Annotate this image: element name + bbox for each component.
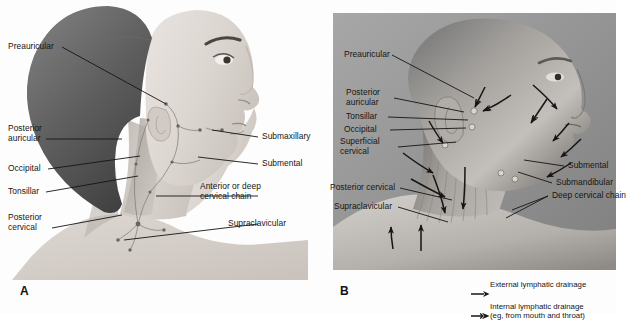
- label-a-posterior-auricular: Posterior auricular: [8, 124, 42, 143]
- legend-label-internal: Internal lymphatic drainage (eg, from mo…: [490, 303, 585, 320]
- feathered-arrow-icon: [470, 303, 490, 324]
- label-a-supraclavicular: Supraclavicular: [228, 219, 286, 229]
- label-a-anterior-deep-cervical-chain: Anterior or deep cervical chain: [200, 182, 261, 201]
- label-b-submental: Submental: [568, 161, 609, 171]
- panel-letter-b: B: [340, 284, 349, 298]
- label-b-posterior-auricular: Posterior auricular: [346, 88, 380, 107]
- label-b-tonsillar: Tonsillar: [346, 112, 377, 122]
- face-shape: [146, 10, 260, 186]
- panel-letter-a: A: [20, 284, 29, 298]
- label-a-submaxillary: Submaxillary: [262, 132, 311, 142]
- iris: [223, 56, 230, 63]
- label-a-posterior-cervical: Posterior cervical: [8, 213, 42, 232]
- pupil: [555, 74, 561, 80]
- legend: External lymphatic drainage Internal lym…: [470, 281, 616, 324]
- legend-row-external: External lymphatic drainage: [470, 281, 616, 302]
- label-b-posterior-cervical: Posterior cervical: [330, 183, 395, 193]
- label-a-submental: Submental: [262, 159, 303, 169]
- label-b-superficial-cervical: Superficial cervical: [340, 137, 380, 156]
- legend-row-internal: Internal lymphatic drainage (eg, from mo…: [470, 303, 616, 324]
- solid-arrow-icon: [470, 281, 490, 302]
- label-a-preauricular: Preauricular: [8, 42, 54, 52]
- label-b-supraclavicular: Supraclavicular: [334, 202, 392, 212]
- legend-label-external: External lymphatic drainage: [490, 281, 586, 290]
- label-b-preauricular: Preauricular: [344, 50, 390, 60]
- label-a-occipital: Occipital: [8, 164, 41, 174]
- label-b-deep-cervical-chain: Deep cervical chain: [552, 191, 626, 201]
- label-a-tonsillar: Tonsillar: [8, 187, 39, 197]
- label-b-submandibular: Submandibular: [556, 178, 613, 188]
- label-b-occipital: Occipital: [344, 125, 377, 135]
